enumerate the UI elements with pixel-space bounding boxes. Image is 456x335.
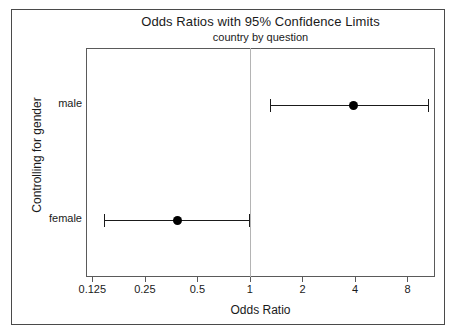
estimate-marker	[349, 101, 358, 110]
estimate-marker	[173, 216, 182, 225]
x-tick-mark	[302, 277, 303, 282]
x-tick-mark	[145, 277, 146, 282]
chart-subtitle: country by question	[86, 31, 435, 43]
x-tick-label: 2	[299, 283, 305, 295]
chart-page: Odds Ratios with 95% Confidence Limits c…	[0, 0, 456, 335]
y-tick-label-male: male	[22, 97, 82, 109]
plot-area	[86, 48, 435, 277]
x-tick-mark	[92, 277, 93, 282]
x-tick-mark	[197, 277, 198, 282]
x-tick-label: 0.5	[190, 283, 205, 295]
ci-lower-cap	[104, 214, 105, 227]
x-tick-label: 4	[352, 283, 358, 295]
chart-title: Odds Ratios with 95% Confidence Limits	[86, 14, 435, 29]
reference-line-odds-ratio-1	[250, 48, 251, 277]
x-axis-title: Odds Ratio	[86, 303, 435, 317]
x-tick-mark	[250, 277, 251, 282]
x-tick-label: 1	[247, 283, 253, 295]
ci-lower-cap	[270, 99, 271, 112]
x-tick-mark	[355, 277, 356, 282]
y-tick-label-female: female	[22, 212, 82, 224]
x-tick-mark	[407, 277, 408, 282]
ci-upper-cap	[428, 99, 429, 112]
x-tick-label: 0.25	[134, 283, 155, 295]
x-tick-label: 0.125	[79, 283, 107, 295]
y-axis-tick-labels: male female	[18, 48, 82, 277]
ci-upper-cap	[249, 214, 250, 227]
x-tick-label: 8	[404, 283, 410, 295]
